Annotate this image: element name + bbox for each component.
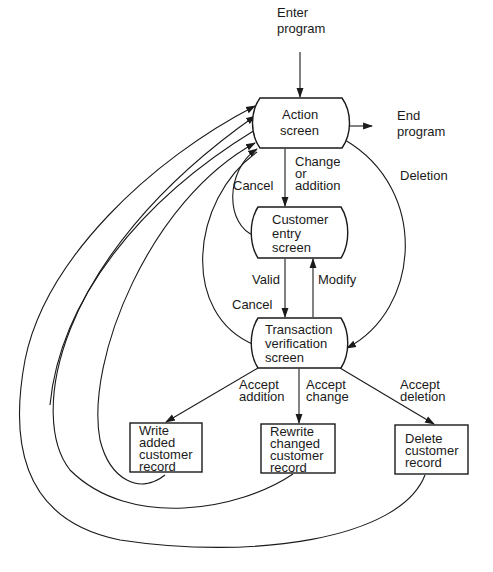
svg-text:verification: verification <box>265 336 327 351</box>
cancel-transaction-label: Cancel <box>232 297 273 312</box>
return-arc-aux <box>50 130 255 405</box>
svg-text:record: record <box>139 459 176 474</box>
svg-text:addition: addition <box>239 389 285 404</box>
svg-text:Action: Action <box>282 107 318 122</box>
svg-text:Enter: Enter <box>277 5 309 20</box>
cancel-entry-label: Cancel <box>233 178 274 193</box>
transaction-verification-screen-node: Transaction verification screen <box>251 318 348 368</box>
svg-text:record: record <box>405 455 442 470</box>
svg-text:deletion: deletion <box>400 389 446 404</box>
svg-text:addition: addition <box>295 178 341 193</box>
deletion-arc <box>345 140 405 348</box>
delete-record-node: Delete customer record <box>395 425 468 474</box>
accept-deletion-label: Accept deletion <box>400 377 446 404</box>
valid-label: Valid <box>252 272 280 287</box>
svg-text:screen: screen <box>272 240 311 255</box>
deletion-label: Deletion <box>400 168 448 183</box>
svg-text:program: program <box>277 21 325 36</box>
return-arc-delete <box>19 106 425 547</box>
svg-text:change: change <box>306 389 349 404</box>
enter-program-label: Enter program <box>277 5 325 36</box>
rewrite-changed-record-node: Rewrite changed customer record <box>261 424 335 475</box>
flowchart-diagram: Enter program End program Action screen … <box>0 0 493 572</box>
svg-text:Customer: Customer <box>272 212 329 227</box>
svg-text:screen: screen <box>280 123 319 138</box>
change-or-addition-label: Change or addition <box>295 154 341 193</box>
svg-text:entry: entry <box>272 226 301 241</box>
end-program-label: End program <box>397 108 445 139</box>
accept-change-label: Accept change <box>306 377 349 404</box>
svg-text:program: program <box>397 124 445 139</box>
write-added-record-node: Write added customer record <box>130 423 202 474</box>
accept-addition-label: Accept addition <box>239 377 285 404</box>
svg-text:Transaction: Transaction <box>265 322 332 337</box>
customer-entry-screen-node: Customer entry screen <box>251 207 348 258</box>
action-screen-node: Action screen <box>253 98 350 148</box>
modify-label: Modify <box>318 272 357 287</box>
svg-text:record: record <box>270 460 307 475</box>
svg-text:screen: screen <box>265 350 304 365</box>
svg-text:End: End <box>397 108 420 123</box>
